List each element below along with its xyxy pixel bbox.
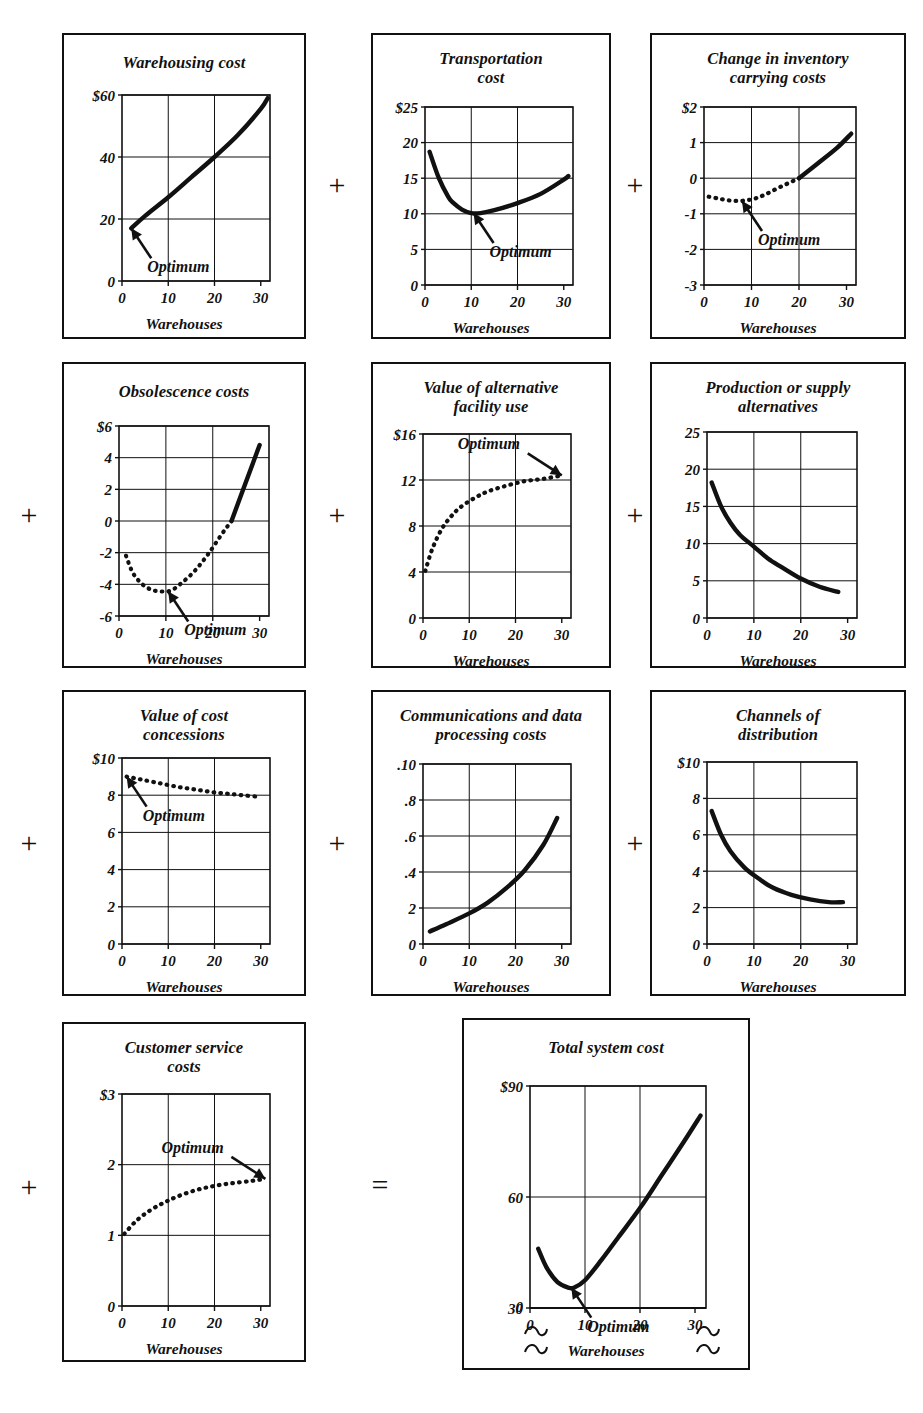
- x-axis-title: Warehouses: [652, 319, 904, 337]
- chart-title-line: cost: [373, 68, 609, 87]
- y-tick-label: 10: [685, 536, 701, 552]
- y-tick-label: 5: [693, 573, 701, 589]
- x-tick-label: 10: [462, 953, 478, 969]
- x-tick-label: 10: [746, 627, 762, 643]
- x-tick-label: 10: [464, 294, 480, 310]
- y-tick-label: $90: [500, 1079, 524, 1095]
- chart-title: Channels ofdistribution: [652, 706, 904, 744]
- chart-title: Total system cost: [464, 1038, 748, 1057]
- x-tick-label: 20: [206, 290, 223, 306]
- chart-title-line: Customer service: [64, 1038, 304, 1057]
- chart-title: Customer servicecosts: [64, 1038, 304, 1076]
- y-tick-label: 8: [693, 791, 701, 807]
- y-tick-label: 0: [105, 514, 113, 530]
- chart-title-line: Value of cost: [64, 706, 304, 725]
- y-tick-label: 15: [685, 499, 701, 515]
- chart-title: Warehousing cost: [64, 53, 304, 72]
- chart-panel-obsolescence-costs: Obsolescence costs0102030-6-4-2024$6Opti…: [62, 362, 306, 668]
- chart-panel-channels-of-distribution: Channels ofdistribution010203002468$10Wa…: [650, 690, 906, 996]
- x-tick-label: 10: [161, 1315, 177, 1331]
- plus-operator: +: [620, 500, 650, 530]
- y-tick-label: 2: [692, 900, 701, 916]
- y-tick-label: 0: [693, 937, 701, 953]
- plot-area: 0102030-6-4-2024$6Optimum: [77, 410, 285, 662]
- chart-panel-transportation-cost: Transportationcost010203005101520$25Opti…: [371, 33, 611, 339]
- plot-area: 0102030-3-2-101$2Optimum: [662, 91, 872, 331]
- plus-operator: +: [322, 500, 352, 530]
- y-tick-label: -4: [100, 577, 113, 593]
- optimum-annotation: Optimum: [147, 258, 209, 276]
- chart-title-line: Value of alternative: [373, 378, 609, 397]
- y-tick-label: -6: [100, 609, 113, 625]
- optimum-annotation: Optimum: [184, 621, 246, 639]
- y-tick-label: 20: [99, 212, 116, 228]
- y-tick-label: 5: [411, 242, 419, 258]
- y-tick-label: .10: [397, 757, 416, 773]
- x-tick-label: 0: [700, 294, 708, 310]
- x-axis-title: Warehouses: [64, 978, 304, 996]
- y-tick-label: 1: [108, 1228, 116, 1244]
- x-tick-label: 30: [553, 953, 570, 969]
- y-tick-label: 0: [690, 171, 698, 187]
- chart-title: Communications and dataprocessing costs: [373, 706, 609, 744]
- chart-panel-total-system-cost: Total system cost010203003060$90OptimumW…: [462, 1018, 750, 1370]
- x-axis-title: Warehouses: [464, 1342, 748, 1360]
- y-tick-label: 12: [401, 473, 417, 489]
- x-tick-label: 20: [206, 953, 223, 969]
- y-tick-label: .8: [405, 793, 417, 809]
- x-tick-label: 0: [115, 625, 123, 641]
- chart-title: Production or supplyalternatives: [652, 378, 904, 416]
- x-axis-title: Warehouses: [652, 978, 904, 996]
- y-tick-label: .4: [405, 865, 417, 881]
- y-tick-label: $25: [395, 100, 419, 116]
- x-tick-label: 0: [419, 627, 427, 643]
- y-tick-label: 4: [104, 450, 113, 466]
- chart-title-line: processing costs: [373, 725, 609, 744]
- chart-title: Value of alternativefacility use: [373, 378, 609, 416]
- plot-area: 01020300510152025: [665, 416, 873, 664]
- x-tick-label: 10: [744, 294, 760, 310]
- y-tick-label: $2: [681, 100, 698, 116]
- y-tick-label: $10: [92, 751, 116, 767]
- chart-title-line: Communications and data: [373, 706, 609, 725]
- chart-title: Value of costconcessions: [64, 706, 304, 744]
- chart-panel-communications-and-data-processing-costs: Communications and dataprocessing costs0…: [371, 690, 611, 996]
- plus-operator: +: [322, 828, 352, 858]
- x-tick-label: 0: [703, 627, 711, 643]
- y-tick-label: $60: [92, 88, 116, 104]
- y-tick-label: 0: [693, 611, 701, 627]
- plus-operator: +: [14, 828, 44, 858]
- y-tick-label: 4: [692, 864, 701, 880]
- chart-title-line: facility use: [373, 397, 609, 416]
- x-tick-label: 0: [526, 1317, 534, 1333]
- plus-operator: +: [620, 828, 650, 858]
- equals-operator: =: [365, 1170, 395, 1200]
- x-tick-label: 30: [555, 294, 572, 310]
- x-axis-title: Warehouses: [373, 978, 609, 996]
- y-tick-label: -1: [685, 206, 698, 222]
- y-tick-label: 1: [690, 135, 698, 151]
- y-tick-label: -3: [685, 278, 698, 294]
- chart-title-line: Change in inventory: [652, 49, 904, 68]
- y-tick-label: 0: [108, 937, 116, 953]
- x-tick-label: 20: [792, 953, 809, 969]
- y-tick-label: 60: [508, 1190, 524, 1206]
- y-tick-label: -2: [100, 545, 113, 561]
- plot-area: 010203002040$60Optimum: [80, 79, 286, 327]
- optimum-annotation: Optimum: [490, 243, 552, 261]
- chart-panel-change-in-inventory-carrying-costs: Change in inventorycarrying costs0102030…: [650, 33, 906, 339]
- y-tick-label: 8: [108, 788, 116, 804]
- chart-title-line: alternatives: [652, 397, 904, 416]
- plot-area: 010203002468$10: [665, 746, 873, 990]
- optimum-annotation: Optimum: [758, 231, 820, 249]
- chart-title-line: carrying costs: [652, 68, 904, 87]
- x-tick-label: 30: [252, 953, 269, 969]
- x-axis-title: Warehouses: [64, 650, 304, 668]
- x-tick-label: 0: [118, 1315, 126, 1331]
- chart-title-line: Obsolescence costs: [64, 382, 304, 401]
- x-tick-label: 10: [746, 953, 762, 969]
- plot-area: 010203003060$90Optimum: [488, 1070, 722, 1354]
- chart-panel-customer-service-costs: Customer servicecosts0102030012$3Optimum…: [62, 1022, 306, 1362]
- chart-title: Change in inventorycarrying costs: [652, 49, 904, 87]
- x-tick-label: 0: [421, 294, 429, 310]
